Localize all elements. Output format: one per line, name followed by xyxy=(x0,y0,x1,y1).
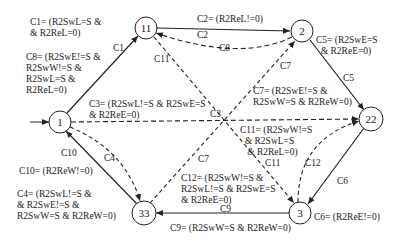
node-1: 1 xyxy=(49,111,71,133)
condition-c2: C2= (R2ReL!=0) xyxy=(197,14,263,25)
condition-c9: C9= (R2SwW=S & R2ReW=0) xyxy=(170,223,291,234)
svg-text:22: 22 xyxy=(366,113,377,125)
condition-c5: C5= (R2SwE=S & R2ReE=0) xyxy=(316,35,378,57)
svg-text:2: 2 xyxy=(299,25,305,37)
condition-c10: C10= (R2ReW!=0) xyxy=(19,166,93,177)
edge-label-c6: C6 xyxy=(337,176,348,186)
svg-text:11: 11 xyxy=(141,22,152,34)
condition-c7: C7= (R2SwE!=S & R2SwW=S & R2ReW=0) xyxy=(253,86,352,108)
condition-c12: C12= (R2SwW!=S & R2SwL!=S & R2SwE=S & R2… xyxy=(181,173,276,206)
condition-c3: C3= (R2SwL!=S & R2SwE=S & R2ReE=0) xyxy=(89,99,206,121)
edge-label-c12: C12 xyxy=(305,158,321,168)
edge-c2 xyxy=(157,28,290,31)
node-11: 11 xyxy=(135,17,157,39)
edge-label-c11b: C11 xyxy=(265,158,280,168)
node-2: 2 xyxy=(291,20,313,42)
condition-c4: C4= (R2SwL!=S & & R2SwE!=S & R2SwW=S & R… xyxy=(17,189,116,222)
condition-c8: C8= (R2SwE!=S & R2SwW!=S & R2SwL=S & R2R… xyxy=(26,52,101,96)
edge-label-c1: C1 xyxy=(113,43,124,53)
node-3: 3 xyxy=(289,202,311,224)
edge-label-c5: C5 xyxy=(343,73,354,83)
condition-c1: C1= (R2SwL=S & & R2ReL=0) xyxy=(30,17,101,39)
condition-c6: C6= (R2ReE!=0) xyxy=(314,212,380,223)
edge-label-c11a: C11 xyxy=(154,54,169,64)
node-22: 22 xyxy=(359,107,383,131)
edge-label-c2: C2 xyxy=(197,30,208,40)
edge-label-c7a: C7 xyxy=(280,61,291,71)
svg-text:33: 33 xyxy=(139,207,151,219)
edge-label-c8: C8 xyxy=(219,43,230,53)
edge-label-c4: C4 xyxy=(104,153,115,163)
svg-text:3: 3 xyxy=(297,207,303,219)
node-33: 33 xyxy=(132,201,156,225)
edge-label-c10: C10 xyxy=(61,148,77,158)
edge-label-c3: C3 xyxy=(210,109,221,119)
condition-c11: C11= (R2SwW!=S & R2SwL=S & R2ReL=0) xyxy=(240,125,312,158)
svg-text:1: 1 xyxy=(57,116,63,128)
edge-label-c7b: C7 xyxy=(198,154,209,164)
